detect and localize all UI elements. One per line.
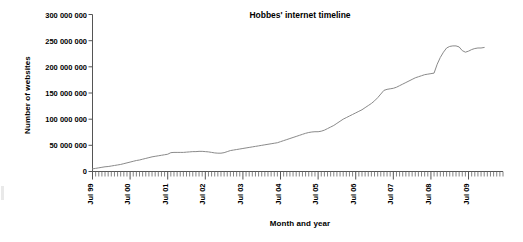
y-axis-tick-labels: 300 000 000 250 000 000 200 000 000 150 … (45, 11, 87, 176)
x-axis-ticks (93, 172, 504, 180)
x-tick-label: Jul 08 (424, 184, 433, 205)
x-tick-label: Jul 05 (311, 184, 320, 205)
y-tick-label: 0 (83, 167, 87, 176)
y-tick-label: 100 000 000 (45, 115, 87, 124)
y-tick-label: 250 000 000 (45, 37, 87, 46)
chart-figure: Number of websites Hobbes' internet time… (0, 0, 523, 242)
y-tick-label: 50 000 000 (49, 141, 87, 150)
y-axis-title: Number of websites (23, 56, 32, 134)
x-tick-label: Jul 99 (86, 184, 95, 205)
x-tick-label: Jul 01 (161, 184, 170, 205)
chart-title: Hobbes' internet timeline (249, 10, 350, 20)
x-tick-label: Jul 07 (386, 184, 395, 205)
y-tick-label: 300 000 000 (45, 11, 87, 20)
line-chart-svg: Number of websites Hobbes' internet time… (0, 0, 523, 242)
x-tick-label: Jul 03 (236, 184, 245, 205)
x-axis-tick-labels: Jul 99Jul 00Jul 01Jul 02Jul 03Jul 04Jul … (86, 183, 471, 205)
x-axis-title: Month and year (270, 219, 331, 228)
x-tick-label: Jul 02 (198, 184, 207, 205)
x-tick-label: Jul 00 (123, 184, 132, 205)
left-edge-artifact (1, 186, 4, 200)
x-tick-label: Jul 04 (274, 183, 283, 205)
x-tick-label: Jul 09 (462, 184, 471, 205)
y-tick-label: 150 000 000 (45, 89, 87, 98)
y-axis-ticks (89, 15, 93, 172)
data-series-line (93, 46, 485, 169)
y-tick-label: 200 000 000 (45, 63, 87, 72)
x-tick-label: Jul 06 (349, 184, 358, 205)
